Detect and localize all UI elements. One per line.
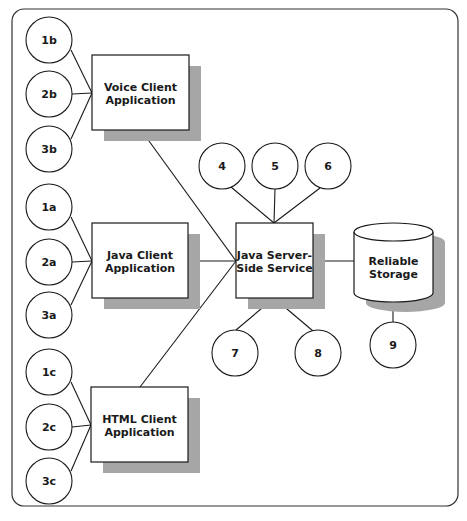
circle-label-9: 9 (389, 339, 397, 352)
circle-node-5: 5 (252, 143, 298, 189)
html-client-box: HTML ClientApplication (91, 387, 188, 462)
circle-label-2c: 2c (42, 421, 56, 434)
java-server-label-line2: Side Service (236, 262, 313, 275)
storage-label-line1: Reliable (369, 255, 419, 268)
circle-node-8: 8 (295, 330, 341, 376)
voice-client-label-line1: Voice Client (104, 81, 177, 94)
circle-node-4: 4 (199, 143, 245, 189)
connector-5 (274, 189, 275, 223)
voice-client-box: Voice ClientApplication (92, 55, 189, 130)
connector-2c (72, 425, 91, 427)
html-client-label-line1: HTML Client (102, 413, 177, 426)
connector-6 (274, 188, 320, 223)
connector-1a (71, 217, 92, 261)
connector-3b (71, 93, 92, 139)
circle-node-1b: 1b (26, 17, 72, 63)
circle-node-3c: 3c (26, 458, 72, 504)
circle-node-2a: 2a (26, 239, 72, 285)
java-client-box: Java ClientApplication (92, 223, 188, 298)
connector-1c (71, 382, 91, 425)
circle-node-9: 9 (370, 322, 416, 368)
circle-label-4: 4 (218, 160, 226, 173)
circle-label-2a: 2a (41, 256, 56, 269)
circle-node-3a: 3a (26, 292, 72, 338)
circle-node-2c: 2c (26, 404, 72, 450)
java-server-label-line1: Java Server- (236, 249, 312, 262)
connector-4 (231, 187, 274, 223)
html-client-label-line2: Application (104, 426, 174, 439)
circle-node-6: 6 (305, 143, 351, 189)
circle-label-3b: 3b (41, 143, 57, 156)
circle-label-5: 5 (271, 160, 279, 173)
circle-label-1a: 1a (41, 201, 56, 214)
diagram-canvas: Voice ClientApplicationJava ClientApplic… (0, 0, 467, 521)
java-client-label-line2: Application (105, 262, 175, 275)
storage-top (354, 223, 433, 241)
circle-label-1c: 1c (42, 366, 56, 379)
connector-2b (72, 93, 92, 94)
storage-cylinder: ReliableStorage (354, 223, 445, 312)
circle-label-2b: 2b (41, 88, 57, 101)
circle-node-1c: 1c (26, 349, 72, 395)
circle-node-2b: 2b (26, 71, 72, 117)
circle-label-1b: 1b (41, 34, 57, 47)
circle-label-8: 8 (314, 347, 322, 360)
connector-2a (72, 261, 92, 262)
voice-client-label-line2: Application (105, 94, 175, 107)
circle-label-7: 7 (231, 347, 239, 360)
connector-3a (71, 261, 92, 305)
component-boxes: Voice ClientApplicationJava ClientApplic… (91, 55, 313, 462)
connector-3c (71, 425, 91, 471)
circle-node-3b: 3b (26, 126, 72, 172)
architecture-diagram: Voice ClientApplicationJava ClientApplic… (0, 0, 467, 521)
circle-node-1a: 1a (26, 184, 72, 230)
connector-1b (71, 50, 92, 93)
java-client-label-line1: Java Client (106, 249, 173, 262)
circle-label-6: 6 (324, 160, 332, 173)
circle-node-7: 7 (212, 330, 258, 376)
circle-label-3c: 3c (42, 475, 56, 488)
storage-label-line2: Storage (369, 268, 418, 281)
circle-label-3a: 3a (41, 309, 56, 322)
java-server-box: Java Server-Side Service (236, 223, 313, 298)
